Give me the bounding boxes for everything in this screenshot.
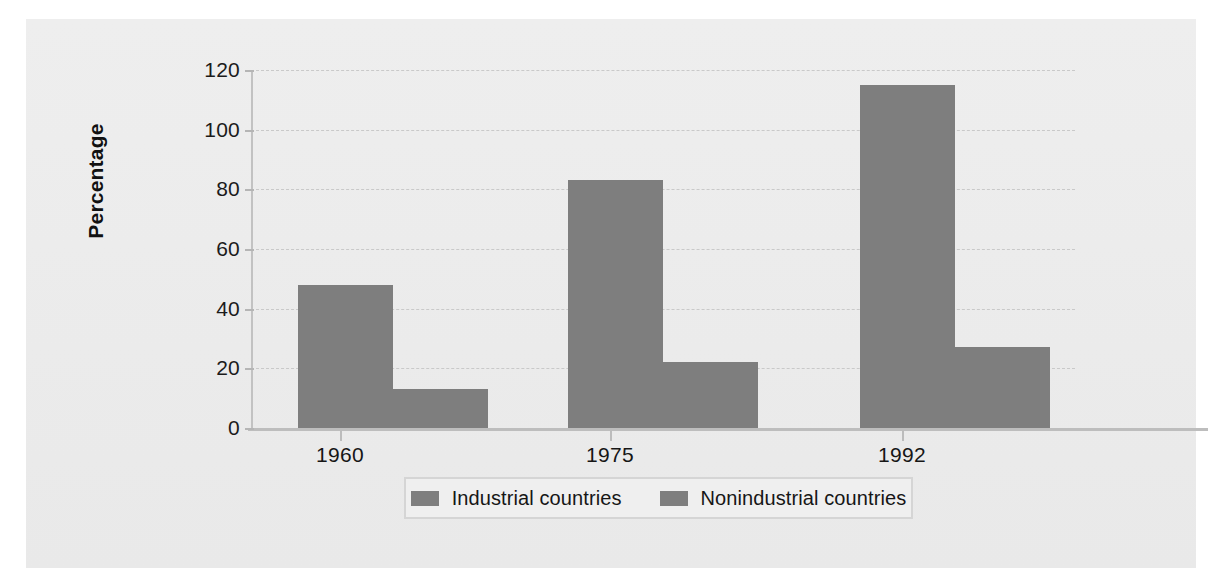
y-tick-label-0: 0 [228, 416, 240, 440]
legend-swatch-icon-nonindustrial [660, 491, 688, 506]
x-tick-label-1975: 1975 [530, 443, 690, 467]
x-tick-mark-1992 [902, 430, 904, 441]
legend-label-industrial: Industrial countries [452, 487, 622, 510]
legend-swatch-icon-industrial [411, 491, 439, 506]
x-axis-line [248, 428, 1208, 431]
y-tick-mark-40 [245, 309, 254, 311]
chart-legend: Industrial countries Nonindustrial count… [404, 477, 913, 519]
bar-1960-industrial[interactable] [298, 285, 393, 428]
y-tick-mark-60 [245, 249, 254, 251]
y-axis-tick-labels: 120 100 80 60 40 20 0 [176, 70, 240, 428]
y-tick-mark-20 [245, 368, 254, 370]
legend-entry-nonindustrial[interactable]: Nonindustrial countries [660, 487, 907, 510]
bar-1975-nonindustrial[interactable] [663, 362, 758, 428]
y-tick-mark-0 [245, 428, 254, 430]
legend-label-nonindustrial: Nonindustrial countries [701, 487, 907, 510]
plot-area [251, 70, 1075, 428]
figure: 120 100 80 60 40 20 0 Percentage 1960 19… [0, 0, 1222, 585]
x-tick-label-1992: 1992 [822, 443, 982, 467]
y-tick-label-80: 80 [216, 177, 240, 201]
y-tick-mark-100 [245, 130, 254, 132]
x-tick-label-1960: 1960 [260, 443, 420, 467]
bar-1992-nonindustrial[interactable] [955, 347, 1050, 428]
y-tick-label-120: 120 [204, 58, 240, 82]
y-tick-label-40: 40 [216, 297, 240, 321]
x-tick-mark-1960 [340, 430, 342, 441]
y-tick-label-20: 20 [216, 356, 240, 380]
bar-1975-industrial[interactable] [568, 180, 663, 428]
y-axis-title: Percentage [84, 81, 108, 281]
gridline-120 [251, 70, 1075, 71]
y-tick-label-60: 60 [216, 237, 240, 261]
bar-1992-industrial[interactable] [860, 85, 955, 428]
y-tick-mark-80 [245, 189, 254, 191]
y-tick-label-100: 100 [204, 118, 240, 142]
y-tick-mark-120 [245, 70, 254, 72]
bar-1960-nonindustrial[interactable] [393, 389, 488, 428]
legend-entry-industrial[interactable]: Industrial countries [411, 487, 622, 510]
x-tick-mark-1975 [610, 430, 612, 441]
bar-chart: 120 100 80 60 40 20 0 Percentage 1960 19… [26, 19, 1196, 568]
